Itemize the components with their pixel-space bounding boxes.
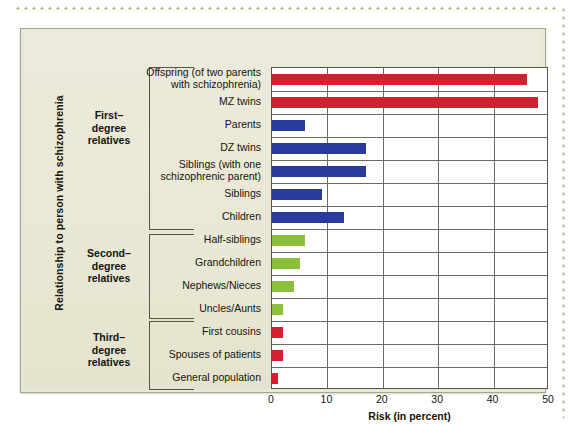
- bar-10: [272, 304, 283, 315]
- category-label: Grandchildren: [129, 257, 261, 269]
- row-separator: [272, 229, 547, 230]
- plot-area: [271, 67, 548, 389]
- row-separator: [272, 367, 547, 368]
- category-label-line: MZ twins: [129, 96, 261, 108]
- category-label-line: Children: [129, 211, 261, 223]
- bar-0: [272, 74, 527, 85]
- category-label-line: Siblings (with one: [129, 159, 261, 171]
- row-separator: [272, 206, 547, 207]
- category-label: Parents: [129, 119, 261, 131]
- row-separator: [272, 344, 547, 345]
- row-separator: [272, 137, 547, 138]
- bar-1: [272, 97, 538, 108]
- category-axis-labels: Offspring (of two parentswith schizophre…: [131, 67, 265, 389]
- category-label-line: Nephews/Nieces: [129, 280, 261, 292]
- bar-13: [272, 373, 278, 384]
- category-label: Uncles/Aunts: [129, 303, 261, 315]
- x-axis-title: Risk (in percent): [271, 410, 548, 422]
- bar-8: [272, 258, 300, 269]
- gridline-20: [383, 68, 384, 388]
- category-label-line: with schizophrenia): [129, 79, 261, 91]
- x-tick-50: 50: [542, 393, 554, 405]
- row-separator: [272, 91, 547, 92]
- category-label-line: Spouses of patients: [129, 349, 261, 361]
- category-label: Offspring (of two parentswith schizophre…: [129, 67, 261, 90]
- row-separator: [272, 298, 547, 299]
- category-label: MZ twins: [129, 96, 261, 108]
- category-label: Spouses of patients: [129, 349, 261, 361]
- row-separator: [272, 160, 547, 161]
- category-label-line: First cousins: [129, 326, 261, 338]
- row-separator: [272, 275, 547, 276]
- category-label: Siblings: [129, 188, 261, 200]
- row-separator: [272, 321, 547, 322]
- y-axis-title: Relationship to person with schizophreni…: [53, 53, 65, 353]
- bar-5: [272, 189, 322, 200]
- bar-2: [272, 120, 305, 131]
- category-label: Siblings (with oneschizophrenic parent): [129, 159, 261, 182]
- category-label-line: schizophrenic parent): [129, 171, 261, 183]
- x-tick-30: 30: [431, 393, 443, 405]
- bar-9: [272, 281, 294, 292]
- decorative-dotted-rule-right: [561, 6, 566, 418]
- category-label-line: General population: [129, 372, 261, 384]
- bar-12: [272, 350, 283, 361]
- decorative-dotted-rule-top: [14, 6, 559, 11]
- x-tick-0: 0: [268, 393, 274, 405]
- gridline-40: [494, 68, 495, 388]
- category-label-line: Parents: [129, 119, 261, 131]
- row-separator: [272, 114, 547, 115]
- bar-4: [272, 166, 366, 177]
- bar-3: [272, 143, 366, 154]
- x-tick-20: 20: [376, 393, 388, 405]
- category-label-line: Grandchildren: [129, 257, 261, 269]
- category-label-line: Half-siblings: [129, 234, 261, 246]
- category-label: Nephews/Nieces: [129, 280, 261, 292]
- bar-11: [272, 327, 283, 338]
- category-label-line: Offspring (of two parents: [129, 67, 261, 79]
- x-tick-10: 10: [321, 393, 333, 405]
- category-label: DZ twins: [129, 142, 261, 154]
- category-label: Children: [129, 211, 261, 223]
- category-label: General population: [129, 372, 261, 384]
- row-separator: [272, 252, 547, 253]
- category-label: Half-siblings: [129, 234, 261, 246]
- category-label-line: DZ twins: [129, 142, 261, 154]
- bar-6: [272, 212, 344, 223]
- x-tick-40: 40: [487, 393, 499, 405]
- category-label-line: Siblings: [129, 188, 261, 200]
- figure-panel: Relationship to person with schizophreni…: [20, 28, 546, 393]
- bar-7: [272, 235, 305, 246]
- category-label: First cousins: [129, 326, 261, 338]
- row-separator: [272, 183, 547, 184]
- gridline-30: [438, 68, 439, 388]
- gridline-10: [327, 68, 328, 388]
- category-label-line: Uncles/Aunts: [129, 303, 261, 315]
